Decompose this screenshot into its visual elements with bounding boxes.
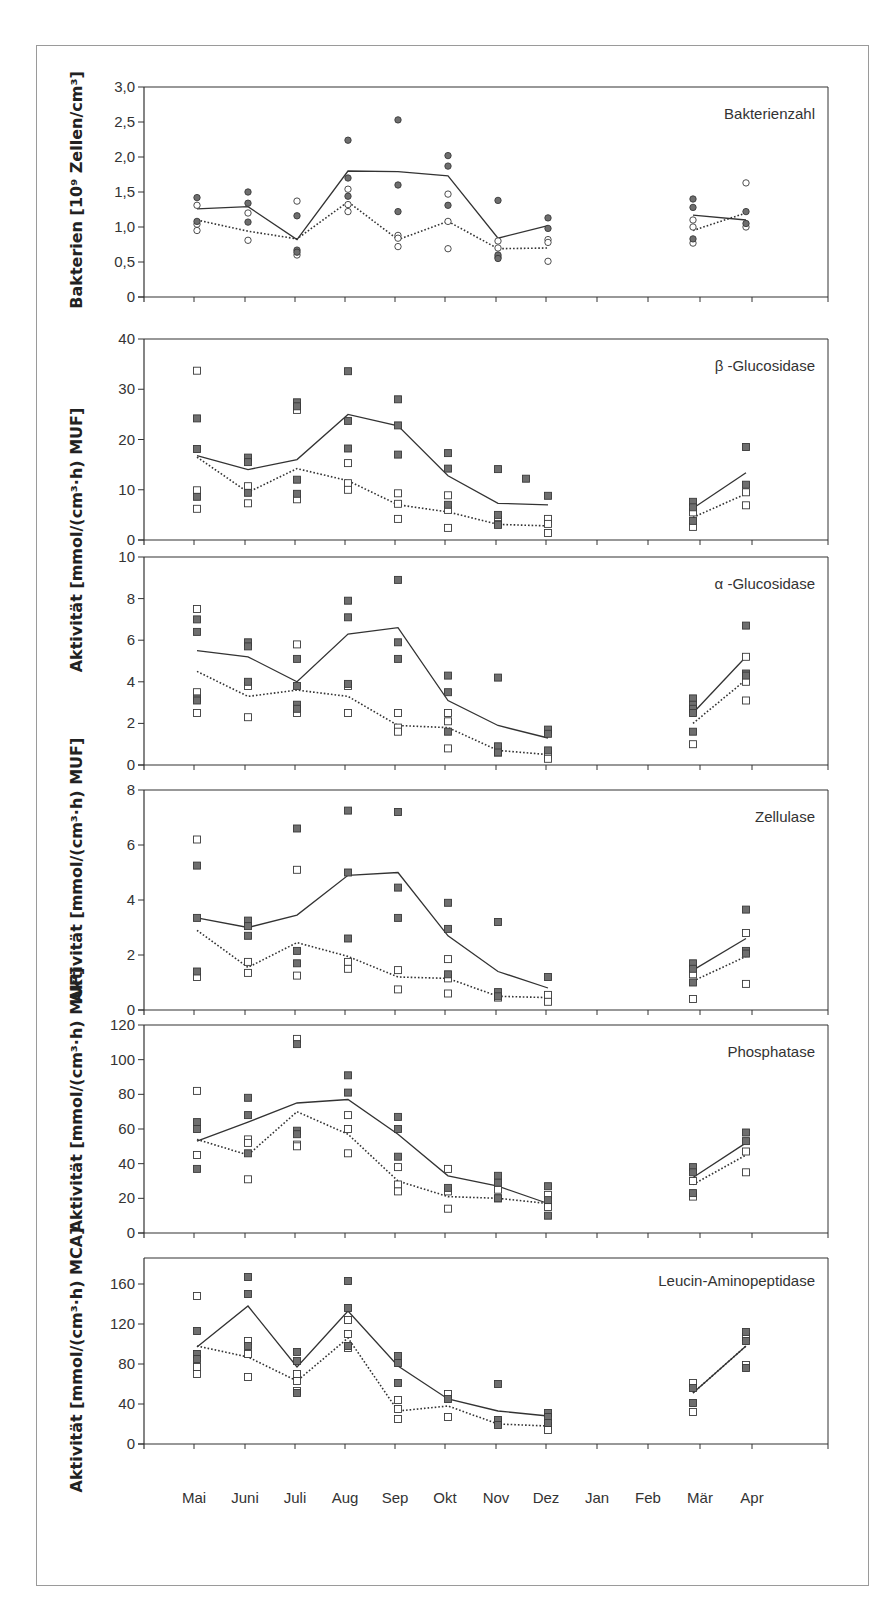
filled-square-marker — [495, 1172, 502, 1179]
y-tick-label: 120 — [110, 1315, 135, 1332]
open-square-marker — [690, 996, 697, 1003]
filled-square-marker — [194, 1328, 201, 1335]
filled-square-marker — [245, 1112, 252, 1119]
y-tick-label: 120 — [110, 1016, 135, 1033]
y-tick-label: 2 — [127, 714, 135, 731]
filled-circle-marker — [690, 236, 696, 242]
filled-circle-marker — [345, 137, 351, 143]
y-tick-label: 40 — [118, 330, 135, 347]
y-tick-label: 0,5 — [114, 253, 135, 270]
filled-square-marker — [395, 884, 402, 891]
filled-square-marker — [545, 730, 552, 737]
open-square-marker — [245, 500, 252, 507]
y-tick-label: 40 — [118, 1155, 135, 1172]
filled-square-marker — [545, 747, 552, 754]
filled-square-marker — [395, 1113, 402, 1120]
month-label: Juli — [284, 1489, 307, 1506]
open-square-marker — [194, 1371, 201, 1378]
open-square-marker — [545, 1204, 552, 1211]
open-square-marker — [345, 710, 352, 717]
filled-square-marker — [545, 1212, 552, 1219]
open-square-marker — [545, 991, 552, 998]
month-label: Apr — [740, 1489, 763, 1506]
y-tick-label: 2 — [127, 946, 135, 963]
filled-square-marker — [445, 450, 452, 457]
open-square-marker — [345, 480, 352, 487]
filled-circle-marker — [545, 215, 551, 221]
filled-square-marker — [345, 417, 352, 424]
filled-square-marker — [294, 403, 301, 410]
filled-square-marker — [245, 1094, 252, 1101]
open-square-marker — [545, 755, 552, 762]
filled-square-marker — [690, 517, 697, 524]
y-tick-label: 6 — [127, 631, 135, 648]
open-square-marker — [345, 958, 352, 965]
filled-square-marker — [245, 643, 252, 650]
open-square-marker — [245, 714, 252, 721]
filled-square-marker — [395, 1153, 402, 1160]
open-square-marker — [445, 1165, 452, 1172]
filled-square-marker — [194, 616, 201, 623]
filled-square-marker — [445, 1396, 452, 1403]
filled-square-marker — [194, 1165, 201, 1172]
filled-square-marker — [445, 971, 452, 978]
filled-square-marker — [690, 710, 697, 717]
open-square-marker — [245, 1351, 252, 1358]
filled-square-marker — [690, 1190, 697, 1197]
filled-square-marker — [294, 1390, 301, 1397]
filled-square-marker — [245, 1274, 252, 1281]
open-square-marker — [395, 967, 402, 974]
filled-circle-marker — [294, 249, 300, 255]
filled-circle-marker — [690, 196, 696, 202]
open-square-marker — [345, 965, 352, 972]
y-axis-title: Aktivität [mmol/(cm³·h) MCA] — [67, 1228, 86, 1493]
filled-circle-marker — [245, 189, 251, 195]
filled-square-marker — [245, 1291, 252, 1298]
filled-square-marker — [545, 1197, 552, 1204]
y-tick-label: 2,5 — [114, 113, 135, 130]
open-square-marker — [345, 1150, 352, 1157]
open-square-marker — [743, 697, 750, 704]
y-tick-label: 80 — [118, 1355, 135, 1372]
y-axis-labels: Bakterien [10⁹ Zellen/cm³]Aktivität [mmo… — [67, 71, 86, 1492]
filled-circle-marker — [245, 219, 251, 225]
y-axis-title: Aktivität [mmol/(cm³·h) MUF] — [67, 408, 86, 673]
filled-square-marker — [194, 1119, 201, 1126]
y-tick-label: 3,0 — [114, 78, 135, 95]
filled-square-marker — [194, 415, 201, 422]
filled-square-marker — [743, 672, 750, 679]
open-square-marker — [743, 1148, 750, 1155]
month-label: Feb — [635, 1489, 661, 1506]
open-square-marker — [545, 1427, 552, 1434]
open-circle-marker — [345, 201, 351, 207]
open-square-marker — [194, 1087, 201, 1094]
open-circle-marker — [345, 186, 351, 192]
filled-circle-marker — [495, 255, 501, 261]
outer-frame — [37, 46, 869, 1586]
open-square-marker — [345, 460, 352, 467]
filled-square-marker — [395, 451, 402, 458]
y-tick-label: 0 — [127, 1435, 135, 1452]
y-tick-label: 6 — [127, 836, 135, 853]
open-square-marker — [445, 990, 452, 997]
open-square-marker — [445, 524, 452, 531]
open-circle-marker — [345, 208, 351, 214]
open-square-marker — [345, 486, 352, 493]
open-square-marker — [345, 1126, 352, 1133]
filled-square-marker — [445, 728, 452, 735]
filled-circle-marker — [294, 213, 300, 219]
open-square-marker — [294, 972, 301, 979]
open-square-marker — [690, 1409, 697, 1416]
filled-square-marker — [495, 466, 502, 473]
filled-square-marker — [545, 1183, 552, 1190]
open-circle-marker — [743, 180, 749, 186]
month-label: Jan — [585, 1489, 609, 1506]
month-label: Mär — [687, 1489, 713, 1506]
open-square-marker — [294, 866, 301, 873]
open-square-marker — [395, 515, 402, 522]
filled-square-marker — [245, 1150, 252, 1157]
filled-square-marker — [245, 932, 252, 939]
panel-title: Zellulase — [755, 808, 815, 825]
open-square-marker — [743, 653, 750, 660]
open-square-marker — [294, 641, 301, 648]
